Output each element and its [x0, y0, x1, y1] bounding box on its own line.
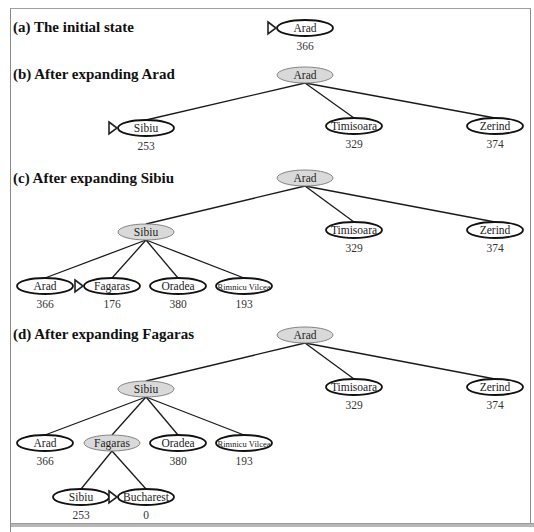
node-label: Oradea — [161, 280, 194, 292]
tree-node-fagaras: Fagaras176 — [75, 278, 140, 310]
tree-edge — [112, 240, 146, 278]
tree-node-timisoara: Timisoara329 — [326, 222, 382, 254]
node-label: Fagaras — [94, 437, 130, 450]
tree-edge — [146, 83, 305, 120]
node-heuristic-value: 374 — [486, 399, 504, 411]
node-heuristic-value: 176 — [103, 298, 121, 310]
search-tree-diagram: Arad366AradSibiu253Timisoara329Zerind374… — [0, 0, 534, 532]
node-heuristic-value: 380 — [169, 298, 187, 310]
node-label: Arad — [294, 329, 317, 341]
tree-edge — [45, 240, 146, 278]
tree-node-bucharest: Bucharest0 — [109, 489, 174, 521]
tree-node-arad: Arad — [277, 170, 333, 186]
node-label: Zerind — [480, 381, 511, 393]
tree-edge — [146, 186, 305, 224]
node-heuristic-value: 366 — [36, 298, 54, 310]
node-heuristic-value: 329 — [345, 399, 363, 411]
selected-arrow-icon — [75, 280, 83, 292]
node-heuristic-value: 253 — [72, 509, 90, 521]
node-label: Arad — [294, 22, 317, 34]
node-label: Zerind — [480, 120, 511, 132]
node-label: Sibiu — [134, 226, 159, 238]
tree-node-arad: Arad366 — [17, 278, 73, 310]
tree-edge — [146, 343, 305, 381]
tree-edge — [146, 240, 244, 278]
tree-node-rimnicu-vilcea: Rimnicu Vilcea193 — [216, 278, 272, 310]
node-label: Arad — [294, 172, 317, 184]
tree-node-sibiu: Sibiu — [118, 224, 174, 240]
node-label: Rimnicu Vilcea — [218, 439, 271, 449]
tree-edge — [305, 83, 495, 118]
tree-node-arad: Arad366 — [17, 435, 73, 467]
tree-nodes: Arad366AradSibiu253Timisoara329Zerind374… — [17, 20, 523, 521]
node-label: Rimnicu Vilcea — [218, 282, 271, 292]
tree-edge — [112, 397, 146, 435]
node-label: Oradea — [161, 437, 194, 449]
tree-edge — [305, 186, 354, 222]
node-label: Arad — [294, 69, 317, 81]
node-heuristic-value: 329 — [345, 138, 363, 150]
node-label: Timisoara — [331, 224, 377, 236]
node-label: Timisoara — [331, 120, 377, 132]
node-label: Fagaras — [94, 280, 130, 293]
node-label: Zerind — [480, 224, 511, 236]
node-label: Timisoara — [331, 381, 377, 393]
tree-node-rimnicu-vilcea: Rimnicu Vilcea193 — [216, 435, 272, 467]
selected-arrow-icon — [268, 22, 276, 34]
node-heuristic-value: 253 — [137, 140, 155, 152]
node-label: Arad — [34, 280, 57, 292]
node-heuristic-value: 193 — [235, 298, 253, 310]
tree-node-fagaras: Fagaras — [84, 435, 140, 451]
node-label: Sibiu — [134, 383, 159, 395]
tree-edge — [81, 451, 112, 489]
selected-arrow-icon — [109, 491, 117, 503]
tree-node-arad: Arad366 — [268, 20, 333, 52]
tree-node-zerind: Zerind374 — [467, 118, 523, 150]
node-heuristic-value: 329 — [345, 242, 363, 254]
tree-edge — [305, 83, 354, 118]
tree-node-oradea: Oradea380 — [150, 435, 206, 467]
tree-edge — [146, 397, 244, 435]
tree-edge — [305, 343, 495, 379]
tree-node-arad: Arad — [277, 327, 333, 343]
node-heuristic-value: 0 — [143, 509, 149, 521]
tree-node-timisoara: Timisoara329 — [326, 118, 382, 150]
tree-node-zerind: Zerind374 — [467, 379, 523, 411]
tree-edge — [45, 397, 146, 435]
node-heuristic-value: 374 — [486, 242, 504, 254]
tree-edge — [305, 343, 354, 379]
tree-node-timisoara: Timisoara329 — [326, 379, 382, 411]
tree-edge — [112, 451, 146, 489]
tree-node-sibiu: Sibiu253 — [53, 489, 109, 521]
node-heuristic-value: 193 — [235, 455, 253, 467]
node-heuristic-value: 366 — [296, 40, 314, 52]
node-heuristic-value: 366 — [36, 455, 54, 467]
selected-arrow-icon — [109, 122, 117, 134]
node-label: Sibiu — [69, 491, 94, 503]
node-label: Arad — [34, 437, 57, 449]
tree-edge — [305, 186, 495, 222]
node-label: Sibiu — [134, 122, 159, 134]
node-label: Bucharest — [123, 491, 170, 503]
tree-node-sibiu: Sibiu — [118, 381, 174, 397]
tree-node-zerind: Zerind374 — [467, 222, 523, 254]
tree-node-oradea: Oradea380 — [150, 278, 206, 310]
tree-node-sibiu: Sibiu253 — [109, 120, 174, 152]
node-heuristic-value: 380 — [169, 455, 187, 467]
tree-node-arad: Arad — [277, 67, 333, 83]
node-heuristic-value: 374 — [486, 138, 504, 150]
